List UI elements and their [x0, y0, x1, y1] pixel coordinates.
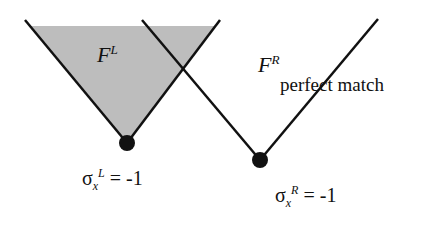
right-apex-label: σxR = -1 — [275, 183, 336, 211]
right-cone-label: FR — [258, 52, 280, 78]
left-apex-dot — [119, 135, 135, 151]
left-apex-label: σxL = -1 — [82, 166, 143, 194]
cone-diagram — [0, 0, 426, 226]
right-apex-dot — [252, 152, 268, 168]
left-cone-shaded-region — [30, 26, 215, 143]
perfect-match-annotation: perfect match — [280, 74, 384, 96]
left-cone-label: FL — [97, 42, 118, 68]
